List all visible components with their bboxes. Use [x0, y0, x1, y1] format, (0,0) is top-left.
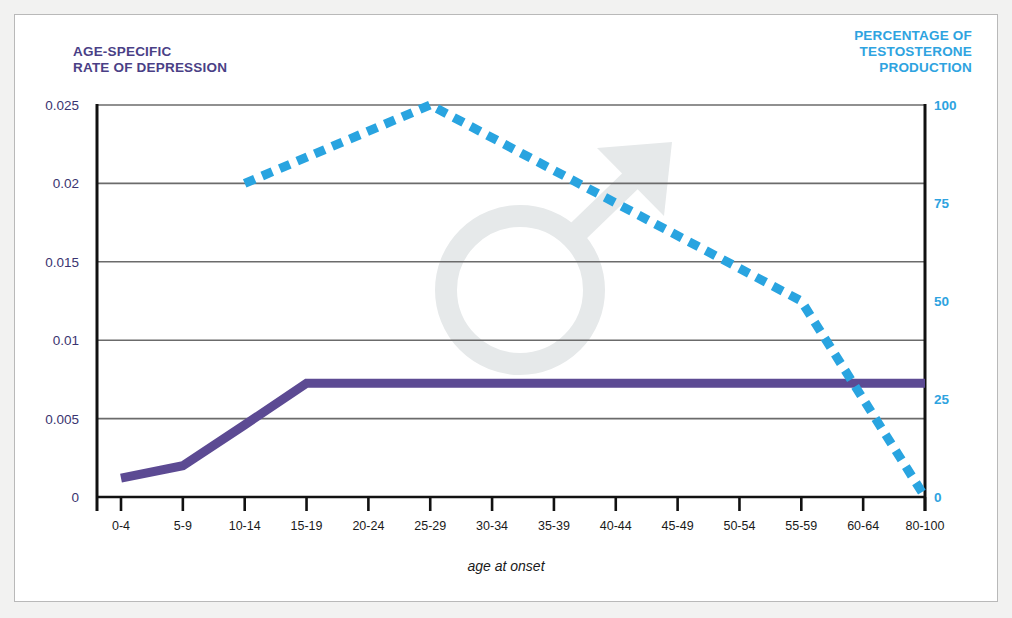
y-axis-right-tick-label: 0 — [934, 490, 942, 505]
y-axis-left-tick-label: 0.02 — [0, 176, 79, 191]
x-axis-tick-label: 5-9 — [174, 519, 192, 533]
x-axis-tick-label: 30-34 — [476, 519, 508, 533]
x-axis-tick-label: 10-14 — [229, 519, 261, 533]
x-axis-tick-label: 0-4 — [112, 519, 130, 533]
x-axis-tick-label: 25-29 — [414, 519, 446, 533]
y-axis-left-tick-label: 0.025 — [0, 98, 79, 113]
y-axis-right-tick-label: 50 — [934, 294, 949, 309]
x-axis-tick-label: 55-59 — [785, 519, 817, 533]
axis-spines — [96, 104, 925, 511]
chart-figure: AGE-SPECIFIC RATE OF DEPRESSION PERCENTA… — [0, 0, 1012, 618]
y-axis-left-tick-label: 0.01 — [0, 333, 79, 348]
x-axis-label: age at onset — [0, 558, 1012, 574]
x-axis-tick-label: 40-44 — [600, 519, 632, 533]
x-axis-tick-label: 80-100 — [906, 519, 945, 533]
y-axis-left-tick-label: 0.005 — [0, 411, 79, 426]
x-tick-marks — [121, 497, 925, 511]
x-axis-tick-label: 60-64 — [847, 519, 879, 533]
x-axis-tick-label: 50-54 — [723, 519, 755, 533]
y-axis-left-tick-label: 0.015 — [0, 254, 79, 269]
x-axis-tick-label: 20-24 — [352, 519, 384, 533]
y-axis-right-tick-label: 75 — [934, 196, 949, 211]
x-axis-tick-label: 45-49 — [662, 519, 694, 533]
x-axis-tick-label: 35-39 — [538, 519, 570, 533]
y-axis-right-tick-label: 25 — [934, 392, 949, 407]
plot-stage: AGE-SPECIFIC RATE OF DEPRESSION PERCENTA… — [0, 0, 1012, 618]
series-line-1 — [121, 383, 925, 478]
x-axis-tick-label: 15-19 — [291, 519, 323, 533]
y-axis-left-tick-label: 0 — [0, 490, 79, 505]
y-axis-right-tick-label: 100 — [934, 98, 957, 113]
